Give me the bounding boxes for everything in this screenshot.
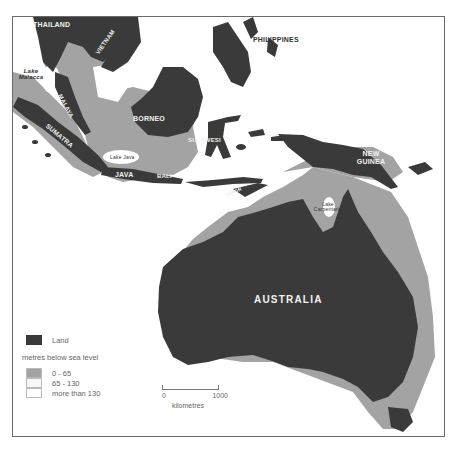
legend-label-0-65: 0 - 65 — [52, 369, 71, 378]
scale-end: 1000 — [212, 392, 228, 399]
scale-start: 0 — [162, 392, 166, 399]
legend-swatch-65-130 — [26, 378, 42, 388]
legend-swatch-over-130 — [26, 388, 42, 398]
legend-land-label: Land — [52, 336, 69, 345]
legend-depth-row-1: 65 - 130 — [26, 378, 100, 388]
label-lake-java: Lake Java — [110, 154, 135, 160]
label-borneo: BORNEO — [133, 115, 165, 122]
label-sulawesi: SULAWESI — [188, 137, 221, 143]
label-lake-malacca: Lake Malacca — [17, 68, 45, 80]
label-lake-carpentaria: Lake Carpentaria — [313, 202, 343, 212]
legend-label-over-130: more than 130 — [52, 389, 100, 398]
label-new-guinea: NEW GUINEA — [351, 150, 391, 166]
label-australia: AUSTRALIA — [254, 294, 323, 305]
legend-depth-heading: metres below sea level — [22, 353, 100, 362]
legend-label-65-130: 65 - 130 — [52, 379, 80, 388]
map-legend: Land metres below sea level 0 - 65 65 - … — [26, 335, 100, 398]
scale-bar: 0 1000 kilometres — [162, 385, 230, 409]
label-philippines: PHILIPPINES — [253, 36, 299, 43]
scale-bar-line — [162, 385, 219, 390]
legend-depth-row-2: more than 130 — [26, 388, 100, 398]
label-bali: BALI — [157, 173, 172, 179]
legend-swatch-0-65 — [26, 368, 42, 378]
scale-unit: kilometres — [172, 402, 230, 409]
legend-land-swatch — [26, 335, 42, 345]
caption-blurred — [14, 441, 234, 447]
legend-land-row: Land — [26, 335, 100, 345]
legend-depth-row-0: 0 - 65 — [26, 368, 100, 378]
label-java: JAVA — [115, 171, 133, 178]
philippines — [213, 22, 251, 87]
label-thailand: THAILAND — [33, 21, 70, 28]
